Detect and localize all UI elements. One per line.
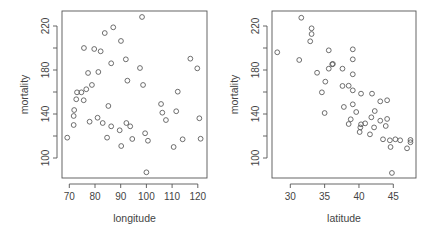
y-tick-label: 100 xyxy=(40,149,51,166)
x-tick-label: 120 xyxy=(189,191,206,202)
data-point xyxy=(308,39,313,44)
data-point xyxy=(175,89,180,94)
data-point xyxy=(198,136,203,141)
data-point xyxy=(378,118,383,123)
data-point xyxy=(105,135,110,140)
data-point xyxy=(141,83,146,88)
data-point xyxy=(359,91,364,96)
plot-frame xyxy=(272,11,416,178)
data-point xyxy=(341,105,346,110)
data-point xyxy=(340,66,345,71)
x-tick-label: 35 xyxy=(319,191,331,202)
data-point xyxy=(368,132,373,137)
data-point xyxy=(350,47,355,52)
data-point xyxy=(74,97,79,102)
data-point xyxy=(140,15,145,20)
data-point xyxy=(309,26,314,31)
longitude-mortality-panel: 708090100110120 100140180220 longitude m… xyxy=(18,11,207,224)
data-point xyxy=(357,130,362,135)
data-points xyxy=(275,15,413,175)
y-tick-label: 180 xyxy=(40,61,51,78)
data-point xyxy=(393,137,398,142)
y-tick-label: 100 xyxy=(250,149,261,166)
data-point xyxy=(319,90,324,95)
data-point xyxy=(350,88,355,93)
data-point xyxy=(348,117,353,122)
data-point xyxy=(123,57,128,62)
data-point xyxy=(117,128,122,133)
x-tick-label: 40 xyxy=(353,191,365,202)
data-point xyxy=(195,66,200,71)
x-tick-label: 90 xyxy=(115,191,127,202)
data-point xyxy=(81,98,86,103)
y-tick-label: 220 xyxy=(40,17,51,34)
y-tick-label: 140 xyxy=(40,105,51,122)
data-point xyxy=(146,138,151,143)
data-point xyxy=(102,31,107,36)
y-axis-title: mortality xyxy=(228,74,240,114)
data-point xyxy=(180,137,185,142)
data-point xyxy=(95,115,100,120)
data-point xyxy=(71,123,76,128)
data-point xyxy=(372,109,377,114)
data-point xyxy=(381,137,386,142)
data-point xyxy=(109,61,114,66)
data-point xyxy=(164,118,169,123)
plot-frame xyxy=(62,11,207,178)
y-tick-label: 180 xyxy=(250,61,261,78)
data-point xyxy=(370,91,375,96)
data-point xyxy=(388,145,393,150)
data-point xyxy=(326,66,331,71)
data-point xyxy=(385,117,390,122)
data-point xyxy=(378,99,383,104)
data-point xyxy=(326,48,331,53)
data-point xyxy=(297,58,302,63)
data-point xyxy=(188,56,193,61)
data-point xyxy=(346,83,351,88)
data-point xyxy=(369,115,374,120)
data-point xyxy=(309,32,314,37)
data-point xyxy=(119,39,124,44)
data-point xyxy=(350,102,355,107)
data-point xyxy=(92,47,97,52)
y-axis-title: mortality xyxy=(18,74,30,114)
data-point xyxy=(143,131,148,136)
data-point xyxy=(144,170,149,175)
data-point xyxy=(385,98,390,103)
x-axis-title: latitude xyxy=(327,212,361,224)
data-point xyxy=(111,25,116,30)
data-point xyxy=(174,109,179,114)
data-point xyxy=(72,108,77,113)
x-tick-label: 100 xyxy=(138,191,155,202)
data-point xyxy=(119,144,124,149)
x-tick-label: 70 xyxy=(64,191,76,202)
data-point xyxy=(98,49,103,54)
data-point xyxy=(387,138,392,143)
latitude-mortality-panel: 30354045 100140180220 latitude mortality xyxy=(228,11,416,224)
data-point xyxy=(372,125,377,130)
data-point xyxy=(383,124,388,129)
data-point xyxy=(405,146,410,151)
data-point xyxy=(299,15,304,20)
y-tick-label: 220 xyxy=(250,17,261,34)
x-tick-label: 110 xyxy=(164,191,180,202)
data-point xyxy=(275,50,280,55)
y-axis: 100140180220 xyxy=(40,17,57,166)
data-point xyxy=(86,71,91,76)
data-point xyxy=(354,110,359,115)
y-tick-label: 140 xyxy=(250,105,261,122)
data-point xyxy=(350,57,355,62)
x-axis: 30354045 xyxy=(285,184,400,202)
scatter-plot-figure: 708090100110120 100140180220 longitude m… xyxy=(0,0,439,239)
data-point xyxy=(160,110,165,115)
data-point xyxy=(350,72,355,77)
data-point xyxy=(358,125,363,130)
data-point xyxy=(130,137,135,142)
x-axis: 708090100110120 xyxy=(64,184,207,202)
x-axis-title: longitude xyxy=(113,212,156,224)
data-point xyxy=(84,87,89,92)
data-point xyxy=(82,46,87,51)
data-point xyxy=(390,171,395,176)
data-point xyxy=(315,70,320,75)
data-point xyxy=(96,70,101,75)
